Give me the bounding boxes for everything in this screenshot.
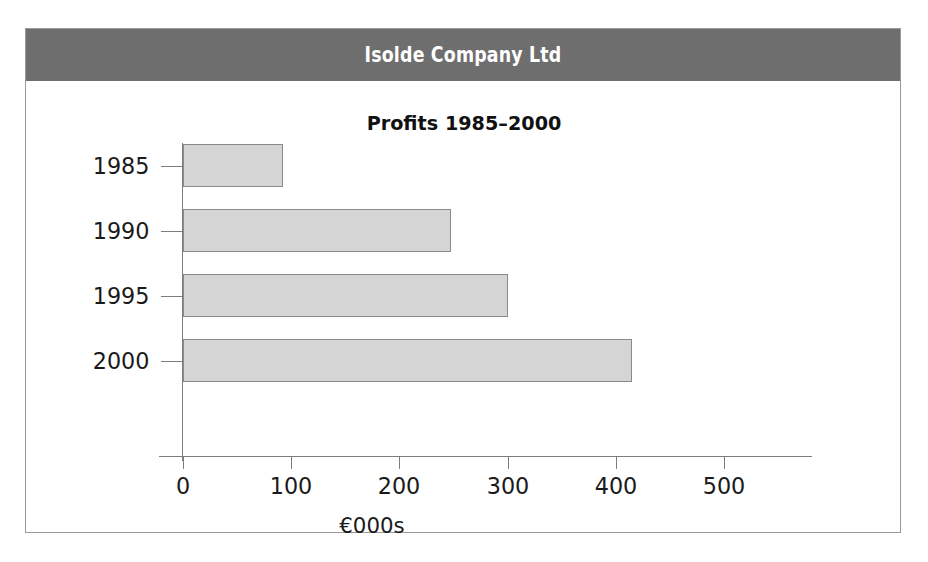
value-tick-100 <box>291 456 292 469</box>
value-tick-label-0: 0 <box>139 473 226 499</box>
value-axis-line <box>159 456 812 457</box>
bar-2000 <box>183 339 632 382</box>
value-axis-title: €000s <box>188 513 557 538</box>
category-label-1995: 1995 <box>53 283 150 309</box>
value-tick-0 <box>183 456 184 469</box>
chart-plot-area: Profits 1985–2000 1985199019952000 01002… <box>26 81 902 533</box>
value-tick-400 <box>616 456 617 469</box>
category-label-2000: 2000 <box>53 348 150 374</box>
category-label-1985: 1985 <box>53 153 150 179</box>
value-tick-200 <box>399 456 400 469</box>
chart-axes: 1985199019952000 0100200300400500 €000s <box>26 81 902 533</box>
company-name: Isolde Company Ltd <box>365 43 562 67</box>
value-tick-label-100: 100 <box>248 473 335 499</box>
category-tick-1990 <box>161 231 183 232</box>
value-tick-label-200: 200 <box>356 473 443 499</box>
value-tick-300 <box>508 456 509 469</box>
value-tick-500 <box>724 456 725 469</box>
value-tick-label-300: 300 <box>464 473 551 499</box>
bar-1995 <box>183 274 508 317</box>
value-tick-label-400: 400 <box>572 473 659 499</box>
company-banner: Isolde Company Ltd <box>26 29 900 81</box>
chart-figure: Isolde Company Ltd Profits 1985–2000 198… <box>25 28 901 533</box>
bar-1990 <box>183 209 451 252</box>
bar-1985 <box>183 144 283 187</box>
category-label-1990: 1990 <box>53 218 150 244</box>
category-tick-2000 <box>161 361 183 362</box>
category-tick-1985 <box>161 166 183 167</box>
value-tick-label-500: 500 <box>680 473 767 499</box>
category-tick-1995 <box>161 296 183 297</box>
